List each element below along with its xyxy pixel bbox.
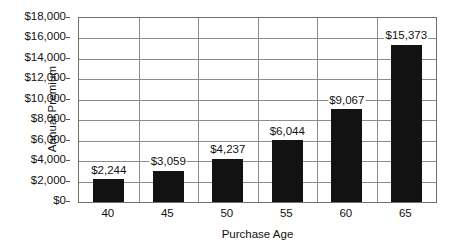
bar[interactable] <box>212 159 243 202</box>
gridline-vertical <box>317 18 318 202</box>
x-axis-tick-label: 50 <box>220 208 233 220</box>
bar[interactable] <box>93 179 124 202</box>
y-axis-tick-label: $10,000 <box>0 93 66 105</box>
y-axis-tick-mark <box>66 37 70 38</box>
y-axis-tick-mark <box>66 99 70 100</box>
bar-value-label: $2,244 <box>90 165 127 177</box>
x-axis-tick-label: 65 <box>399 208 412 220</box>
gridline-vertical <box>198 18 199 202</box>
y-axis-tick-mark <box>66 140 70 141</box>
bar-value-label-text: $9,067 <box>328 94 365 106</box>
bar-chart: Annual Premium $18,000$16,000$14,000$12,… <box>0 0 452 249</box>
bar-value-label-text: $15,373 <box>385 29 429 41</box>
bar-value-label: $9,067 <box>328 95 365 107</box>
gridline-vertical <box>377 18 378 202</box>
y-axis-tick-label: $8,000 <box>0 113 66 125</box>
y-axis-tick-mark <box>66 119 70 120</box>
gridline-vertical <box>258 18 259 202</box>
y-axis-tick-mark <box>66 17 70 18</box>
y-axis-tick-label: $14,000 <box>0 52 66 64</box>
bar[interactable] <box>331 109 362 202</box>
y-axis-tick-label: $18,000 <box>0 11 66 23</box>
y-axis-tick-label: $16,000 <box>0 32 66 44</box>
x-axis-title: Purchase Age <box>78 228 437 240</box>
bar-value-label: $6,044 <box>269 126 306 138</box>
bar-value-label: $15,373 <box>385 30 429 42</box>
x-axis-tick-label: 40 <box>101 208 114 220</box>
gridline-vertical <box>139 18 140 202</box>
y-axis-tick-label: $12,000 <box>0 73 66 85</box>
bar-value-label: $3,059 <box>150 156 187 168</box>
y-axis-tick-mark <box>66 201 70 202</box>
y-axis-tick-labels: $18,000$16,000$14,000$12,000$10,000$8,00… <box>0 17 70 203</box>
y-axis-tick-mark <box>66 58 70 59</box>
bar-value-label-text: $6,044 <box>269 125 306 137</box>
x-axis-tick-label: 45 <box>161 208 174 220</box>
bar-value-label-text: $4,237 <box>209 143 246 155</box>
bar-value-label-text: $3,059 <box>150 155 187 167</box>
y-axis-tick-label: $6,000 <box>0 134 66 146</box>
y-axis-tick-mark <box>66 78 70 79</box>
bar[interactable] <box>272 140 303 202</box>
y-axis-tick-mark <box>66 160 70 161</box>
y-axis-tick-label: $2,000 <box>0 175 66 187</box>
y-axis-tick-mark <box>66 181 70 182</box>
bar[interactable] <box>153 171 184 202</box>
x-axis-tick-label: 60 <box>339 208 352 220</box>
y-axis-tick-label: $4,000 <box>0 154 66 166</box>
x-axis-tick-labels: 404550556065 <box>78 206 437 224</box>
bar[interactable] <box>391 45 422 202</box>
bar-value-label: $4,237 <box>209 144 246 156</box>
plot-area: $2,244$3,059$4,237$6,044$9,067$15,373 <box>78 17 437 203</box>
x-axis-tick-label: 55 <box>280 208 293 220</box>
y-axis-tick-label: $0 <box>0 195 66 207</box>
bar-value-label-text: $2,244 <box>90 164 127 176</box>
